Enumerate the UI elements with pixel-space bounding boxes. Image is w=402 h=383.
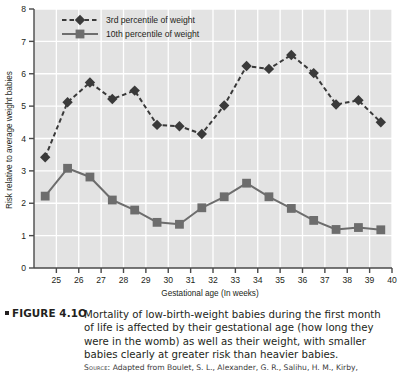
figure-caption-block: FIGURE 4.1O Mortality of low-birth-weigh… [0, 303, 402, 383]
y-tick-label: 1 [21, 231, 26, 241]
data-point-square [265, 192, 274, 201]
source-note: Source: Adapted from Boulet, S. L., Alex… [5, 363, 398, 373]
y-axis-ticks: 012345678 [21, 4, 34, 273]
data-point-square [63, 164, 72, 173]
x-tick-label: 25 [52, 275, 62, 285]
x-tick-label: 33 [231, 275, 241, 285]
data-point-square [41, 192, 50, 201]
y-tick-label: 2 [21, 198, 26, 208]
y-tick-label: 8 [21, 4, 26, 14]
x-tick-label: 39 [365, 275, 375, 285]
x-tick-label: 40 [387, 275, 397, 285]
data-point-square [130, 206, 139, 215]
x-tick-label: 38 [342, 275, 352, 285]
source-citation: Adapted from Boulet, S. L., Alexander, G… [113, 363, 358, 372]
square-bullet-icon [5, 311, 9, 315]
x-tick-label: 27 [96, 275, 106, 285]
y-tick-label: 6 [21, 69, 26, 79]
x-tick-label: 26 [74, 275, 84, 285]
y-tick-label: 4 [21, 134, 26, 144]
data-point-square [153, 218, 162, 227]
data-point-square [175, 220, 184, 229]
data-point-square [76, 30, 85, 39]
figure-number: FIGURE 4.1O [12, 307, 87, 319]
data-point-square [108, 196, 117, 205]
line-chart: 012345678 252627282930313233343536373839… [0, 0, 402, 302]
x-tick-label: 30 [163, 275, 173, 285]
y-tick-label: 5 [21, 101, 26, 111]
figure-container: 012345678 252627282930313233343536373839… [0, 0, 402, 383]
y-tick-label: 7 [21, 37, 26, 47]
data-point-square [309, 216, 318, 225]
data-point-square [197, 203, 206, 212]
x-tick-label: 28 [119, 275, 129, 285]
x-axis-label: Gestational age (In weeks) [161, 289, 259, 298]
y-tick-label: 3 [21, 166, 26, 176]
x-tick-label: 36 [298, 275, 308, 285]
y-axis-label: Risk relative to average weight babies [5, 71, 14, 209]
legend-label-3rd: 3rd percentile of weight [106, 15, 195, 25]
legend-label-10th: 10th percentile of weight [106, 29, 200, 39]
data-point-square [242, 179, 251, 188]
x-tick-label: 31 [186, 275, 196, 285]
data-point-square [220, 192, 229, 201]
data-point-square [332, 225, 341, 234]
x-tick-label: 35 [275, 275, 285, 285]
figure-label-group: FIGURE 4.1O [5, 303, 87, 320]
x-tick-label: 29 [141, 275, 151, 285]
y-tick-label: 0 [21, 263, 26, 273]
data-point-square [376, 225, 385, 234]
x-tick-label: 34 [253, 275, 263, 285]
data-point-square [354, 223, 363, 232]
data-point-square [86, 173, 95, 182]
x-tick-label: 37 [320, 275, 330, 285]
x-tick-label: 32 [208, 275, 218, 285]
data-point-square [287, 204, 296, 213]
source-prefix: Source: [84, 363, 110, 372]
caption-row: FIGURE 4.1O Mortality of low-birth-weigh… [0, 303, 402, 373]
chart-panel: 012345678 252627282930313233343536373839… [0, 0, 402, 302]
x-axis-ticks: 25262728293031323334353637383940 [52, 268, 397, 285]
